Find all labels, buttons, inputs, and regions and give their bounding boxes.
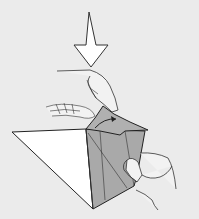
origami-diagram: [0, 0, 199, 219]
diagram-canvas: [0, 0, 199, 219]
paper-left-face: [12, 129, 93, 209]
left-hand-fingers: [46, 103, 95, 118]
push-down-arrow-icon: [74, 12, 108, 67]
